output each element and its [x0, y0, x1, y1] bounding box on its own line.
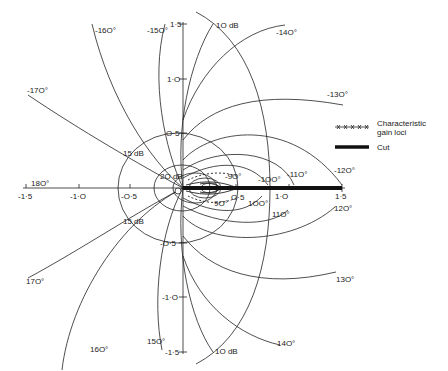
- db-label: 1O dB: [215, 347, 238, 356]
- x-tick-label: O·5: [231, 193, 245, 202]
- phase-label: -14O°: [276, 28, 297, 37]
- y-tick-label: 1·5: [170, 20, 182, 29]
- phase-label: -9O°: [225, 172, 242, 181]
- phase-label: -13O°: [327, 90, 348, 99]
- y-tick-label: 1·O: [167, 75, 180, 84]
- phase-label: 1OO°: [248, 199, 268, 208]
- phase-label: -11O°: [287, 170, 307, 179]
- db-label: 1O dB: [216, 21, 239, 30]
- legend-loci-label: Characteristic: [377, 119, 426, 128]
- phase-label: -15O°: [147, 26, 168, 35]
- y-tick-label: -1·O: [162, 293, 178, 302]
- phase-label: 17O°: [26, 277, 44, 286]
- origin-marker: [175, 188, 181, 194]
- y-tick-label: O·5: [166, 129, 180, 138]
- db-label: 2O dB: [160, 172, 183, 181]
- phase-label: -17O°: [27, 86, 48, 95]
- legend-loci-label: gain loci: [377, 128, 407, 137]
- phase-label: 13O°: [336, 275, 354, 284]
- phase-label: 18O°: [31, 179, 49, 188]
- y-tick-label: -O·5: [160, 239, 177, 248]
- x-tick-label: -1·O: [70, 192, 86, 201]
- x-tick-label: 1·5: [335, 192, 347, 201]
- x-tick-label: -O·5: [121, 192, 138, 201]
- phase-label: 15O°: [147, 337, 165, 346]
- phase-label: 11O°: [272, 210, 290, 219]
- phase-label: -12O°: [334, 166, 355, 175]
- y-tick-label: -1·5: [165, 348, 180, 357]
- legend-loci-swatch: [335, 125, 369, 129]
- db-label: 15 dB: [123, 217, 144, 226]
- phase-label: 9O°: [214, 199, 228, 208]
- db-label: 15 dB: [123, 149, 144, 158]
- legend: Characteristic gain loci Cut: [335, 119, 426, 152]
- nyquist-chart: -1·5 -1·O -O·5 O·5 1·O 1·5 1·5 1·O O·5 -…: [0, 0, 448, 371]
- phase-label: 12O°: [334, 204, 352, 213]
- phase-label: -1OO°: [258, 175, 281, 184]
- legend-cut-label: Cut: [377, 143, 390, 152]
- x-tick-label: -1·5: [18, 192, 33, 201]
- phase-label: 16O°: [90, 345, 108, 354]
- x-tick-label: 1·O: [275, 192, 288, 201]
- phase-label: -16O°: [95, 26, 116, 35]
- phase-label: 14O°: [277, 339, 295, 348]
